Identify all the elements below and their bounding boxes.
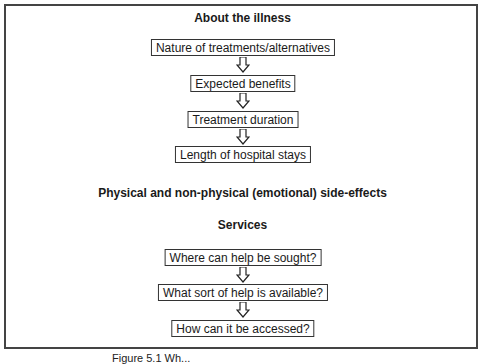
- flow-box-nature-of-treatments: Nature of treatments/alternatives: [151, 39, 335, 56]
- flow-box-how-accessed: How can it be accessed?: [171, 320, 314, 337]
- down-arrow-icon: [236, 57, 250, 73]
- down-arrow-icon: [236, 302, 250, 318]
- section-heading-illness: About the illness: [0, 11, 485, 25]
- figure-caption: Figure 5.1 Wh...: [112, 352, 190, 364]
- flow-box-expected-benefits: Expected benefits: [190, 75, 295, 92]
- down-arrow-icon: [236, 267, 250, 283]
- flow-box-length-of-hospital-stays: Length of hospital stays: [175, 146, 311, 163]
- section-heading-services: Services: [0, 218, 485, 232]
- down-arrow-icon: [236, 93, 250, 109]
- section-heading-side-effects: Physical and non-physical (emotional) si…: [0, 186, 485, 200]
- down-arrow-icon: [236, 129, 250, 145]
- flow-box-where-help: Where can help be sought?: [165, 249, 322, 266]
- flow-box-treatment-duration: Treatment duration: [188, 111, 299, 128]
- flow-box-what-help: What sort of help is available?: [158, 284, 328, 301]
